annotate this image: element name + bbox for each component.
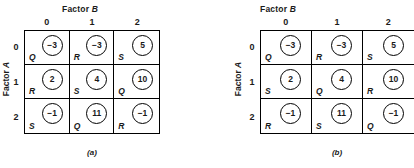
grid-cell: 2 S xyxy=(261,65,312,99)
observation-value: −3 xyxy=(42,35,63,56)
treatment-letter: R xyxy=(74,52,80,62)
observation-value: −3 xyxy=(331,35,352,56)
treatment-letter: Q xyxy=(118,86,125,96)
column-header: 2 xyxy=(363,16,414,28)
row-header: 0 xyxy=(246,30,258,65)
figure-panel-a: Factor B 0 1 2 Factor A 0 1 2 −3 Q −3 R … xyxy=(0,0,200,168)
grid-cell: −1 R xyxy=(114,99,159,133)
treatment-letter: R xyxy=(118,121,124,131)
treatment-letter: Q xyxy=(74,121,81,131)
top-axis-title-b: Factor B xyxy=(260,4,296,14)
column-headers-b: 0 1 2 xyxy=(260,16,414,28)
treatment-letter: Q xyxy=(265,52,272,62)
top-axis-title-prefix-b: Factor xyxy=(260,4,290,14)
column-headers-a: 0 1 2 xyxy=(24,16,160,28)
grid-cell: −1 Q xyxy=(363,99,414,133)
treatment-letter: R xyxy=(265,121,271,131)
row-header: 2 xyxy=(10,99,22,134)
grid-cell: −3 Q xyxy=(261,31,312,65)
observation-value: 11 xyxy=(86,103,107,124)
panel-caption-b: (b) xyxy=(260,148,414,157)
row-header: 1 xyxy=(246,65,258,100)
grid-cell: 10 R xyxy=(363,65,414,99)
treatment-letter: S xyxy=(265,86,271,96)
observation-value: −1 xyxy=(280,103,301,124)
grid-cell: 5 S xyxy=(363,31,414,65)
grid-cell: 11 Q xyxy=(70,99,115,133)
figure-panel-b: Factor B 0 1 2 Factor A 0 1 2 −3 Q −3 R … xyxy=(236,0,399,168)
row-header: 0 xyxy=(10,30,22,65)
treatment-letter: Q xyxy=(316,86,323,96)
observation-value: 10 xyxy=(383,69,404,90)
observation-value: 5 xyxy=(383,35,404,56)
treatment-letter: S xyxy=(74,86,80,96)
top-axis-title-variable-b: B xyxy=(290,4,296,14)
row-header: 1 xyxy=(10,65,22,100)
grid-cell: 4 S xyxy=(70,65,115,99)
observation-value: 11 xyxy=(331,103,352,124)
observation-value: 4 xyxy=(86,69,107,90)
grid-cell: −3 R xyxy=(312,31,363,65)
row-headers-b: 0 1 2 xyxy=(246,30,258,134)
treatment-letter: R xyxy=(316,52,322,62)
observation-value: 2 xyxy=(280,69,301,90)
grid-cell: 11 S xyxy=(312,99,363,133)
observation-value: −1 xyxy=(132,103,153,124)
latin-square-grid-b: −3 Q −3 R 5 S 2 S 4 Q 10 R −1 R 11 S xyxy=(260,30,414,134)
side-axis-title-prefix-b: Factor xyxy=(233,68,243,96)
panel-caption-a: (a) xyxy=(24,148,160,157)
top-axis-title-prefix-a: Factor xyxy=(62,4,92,14)
column-header: 1 xyxy=(69,16,114,28)
grid-cell: 10 Q xyxy=(114,65,159,99)
row-headers-a: 0 1 2 xyxy=(10,30,22,134)
row-header: 2 xyxy=(246,99,258,134)
column-header: 0 xyxy=(260,16,311,28)
observation-value: −3 xyxy=(280,35,301,56)
observation-value: 4 xyxy=(331,69,352,90)
observation-value: 2 xyxy=(42,69,63,90)
observation-value: −1 xyxy=(42,103,63,124)
treatment-letter: R xyxy=(367,86,373,96)
observation-value: 10 xyxy=(132,69,153,90)
treatment-letter: S xyxy=(118,52,124,62)
column-header: 0 xyxy=(24,16,69,28)
treatment-letter: S xyxy=(316,121,322,131)
grid-cell: 4 Q xyxy=(312,65,363,99)
treatment-letter: Q xyxy=(29,52,36,62)
grid-cell: 2 R xyxy=(25,65,70,99)
treatment-letter: S xyxy=(29,121,35,131)
latin-square-grid-a: −3 Q −3 R 5 S 2 R 4 S 10 Q −1 S 11 Q xyxy=(24,30,160,134)
treatment-letter: Q xyxy=(367,121,374,131)
observation-value: −1 xyxy=(383,103,404,124)
top-axis-title-variable-a: B xyxy=(92,4,98,14)
grid-cell: 5 S xyxy=(114,31,159,65)
side-axis-title-variable-b: A xyxy=(233,62,243,68)
grid-cell: −3 R xyxy=(70,31,115,65)
treatment-letter: R xyxy=(29,86,35,96)
observation-value: 5 xyxy=(132,35,153,56)
side-axis-title-b: Factor A xyxy=(233,57,243,101)
top-axis-title-a: Factor B xyxy=(62,4,98,14)
column-header: 2 xyxy=(115,16,160,28)
treatment-letter: S xyxy=(367,52,373,62)
grid-cell: −3 Q xyxy=(25,31,70,65)
grid-cell: −1 S xyxy=(25,99,70,133)
column-header: 1 xyxy=(311,16,362,28)
grid-cell: −1 R xyxy=(261,99,312,133)
observation-value: −3 xyxy=(86,35,107,56)
